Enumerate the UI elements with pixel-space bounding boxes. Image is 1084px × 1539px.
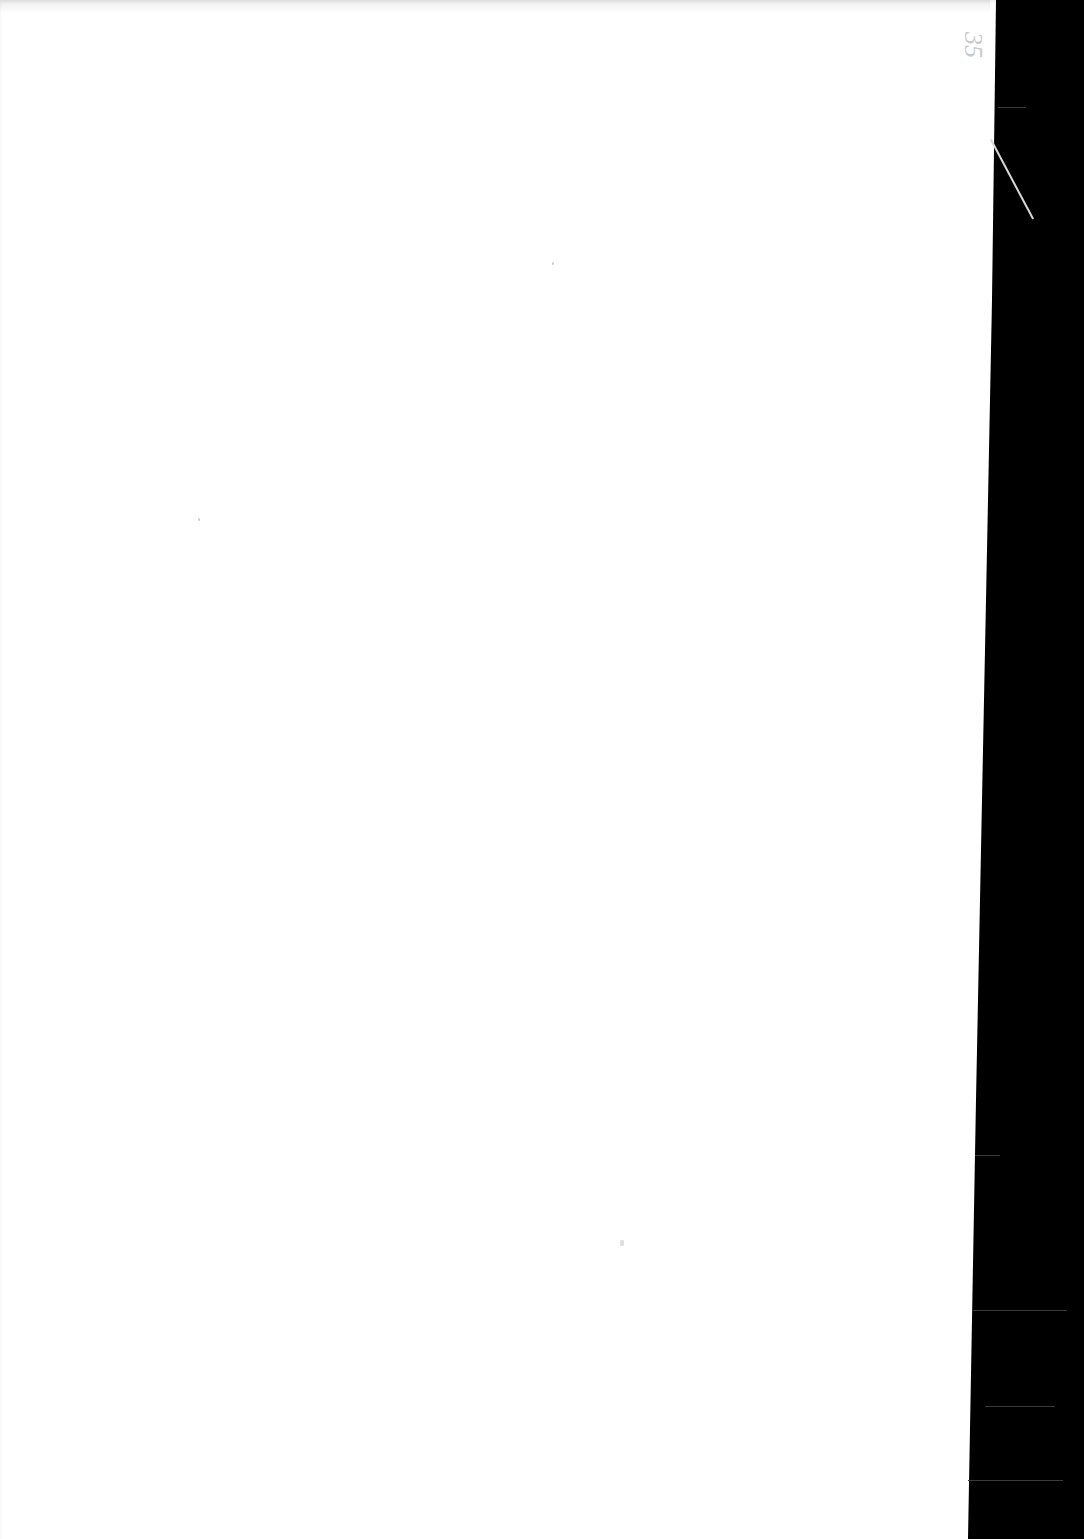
paper-sheet [0, 0, 1084, 1539]
scanned-page: 35 [0, 0, 1084, 1539]
scan-edge-scratch [985, 1406, 1055, 1407]
top-edge-shadow [0, 0, 990, 14]
scan-edge-scratch [975, 1155, 1000, 1156]
paper-speck [552, 262, 554, 265]
bleed-through-text [215, 252, 595, 262]
paper-fiber [990, 139, 1034, 219]
handwritten-page-number: 35 [958, 32, 988, 58]
paper-speck [198, 518, 200, 521]
paper-speck [620, 1240, 624, 1246]
scan-edge-scratch [998, 107, 1026, 108]
scan-edge-scratch [968, 1480, 1063, 1481]
scan-edge-scratch [972, 1310, 1067, 1311]
